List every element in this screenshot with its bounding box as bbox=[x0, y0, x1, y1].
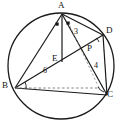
measure-label-6: 6 bbox=[43, 67, 47, 75]
circumcircle bbox=[8, 13, 114, 119]
segment-A-B bbox=[15, 14, 62, 88]
point-label-P: P bbox=[87, 44, 92, 53]
segment-D-C bbox=[103, 35, 107, 95]
measure-label-4: 4 bbox=[94, 62, 98, 70]
angle-mark-A-left bbox=[56, 23, 59, 26]
geometry-figure: A D C B P E 3 4 6 bbox=[0, 0, 122, 131]
geometry-canvas bbox=[0, 0, 122, 131]
measure-label-3: 3 bbox=[74, 28, 78, 36]
point-label-A: A bbox=[58, 1, 65, 10]
point-label-B: B bbox=[2, 81, 8, 90]
point-label-C: C bbox=[107, 90, 113, 99]
point-label-E: E bbox=[52, 54, 58, 63]
segment-B-C bbox=[15, 88, 107, 95]
point-label-D: D bbox=[106, 26, 113, 35]
segment-A-C-dashed-helper bbox=[68, 22, 100, 90]
angle-mark-A-right bbox=[67, 22, 70, 25]
